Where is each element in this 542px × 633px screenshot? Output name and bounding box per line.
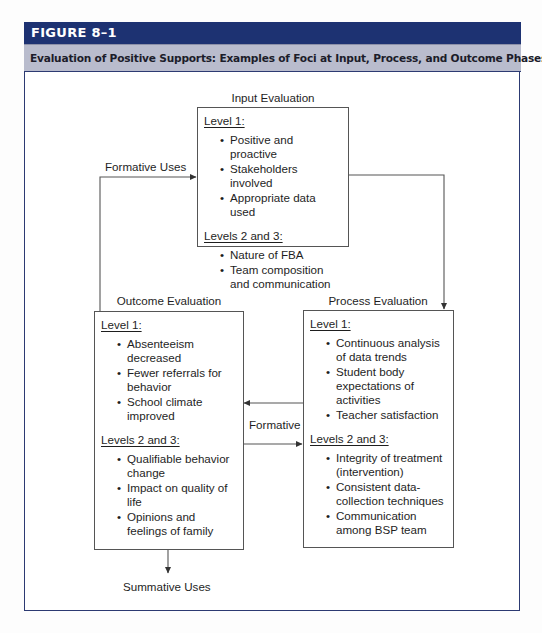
list-item: Nature of FBA — [220, 248, 342, 262]
figure-title: Evaluation of Positive Supports: Example… — [24, 44, 521, 72]
input-level23-heading: Levels 2 and 3: — [204, 229, 342, 243]
list-item: Stakeholders involved — [220, 162, 342, 190]
summative-uses-label: Summative Uses — [123, 580, 211, 594]
process-level1-list: Continuous analysis of data trends Stude… — [310, 336, 447, 422]
list-item: Opinions and feelings of family — [117, 510, 237, 538]
process-level23-heading: Levels 2 and 3: — [310, 432, 447, 446]
input-level1-heading: Level 1: — [204, 114, 342, 128]
outcome-level23-heading: Levels 2 and 3: — [101, 433, 237, 447]
list-item: School climate improved — [117, 395, 237, 423]
process-level1-heading: Level 1: — [310, 317, 447, 331]
process-evaluation-title: Process Evaluation — [303, 294, 453, 308]
outcome-level1-heading: Level 1: — [101, 318, 237, 332]
list-item: Integrity of treatment (intervention) — [326, 451, 447, 479]
outcome-level23-list: Qualifiable behavior change Impact on qu… — [101, 452, 237, 538]
list-item: Student body expectations of activities — [326, 365, 447, 407]
list-item: Positive and proactive — [220, 133, 342, 161]
process-evaluation-box: Level 1: Continuous analysis of data tre… — [303, 310, 454, 548]
list-item: Team composition and communication — [220, 263, 342, 291]
input-evaluation-box: Level 1: Positive and proactive Stakehol… — [197, 107, 349, 247]
input-evaluation-title: Input Evaluation — [197, 91, 349, 105]
list-item: Qualifiable behavior change — [117, 452, 237, 480]
list-item: Communication among BSP team — [326, 509, 447, 537]
list-item: Appropriate data used — [220, 191, 342, 219]
outcome-evaluation-box: Level 1: Absenteeism decreased Fewer ref… — [94, 311, 244, 550]
figure-number: FIGURE 8–1 — [24, 22, 521, 44]
list-item: Continuous analysis of data trends — [326, 336, 447, 364]
input-level1-list: Positive and proactive Stakeholders invo… — [204, 133, 342, 219]
formative-label: Formative — [249, 418, 301, 432]
list-item: Absenteeism decreased — [117, 337, 237, 365]
formative-uses-label: Formative Uses — [105, 160, 186, 174]
outcome-level1-list: Absenteeism decreased Fewer referrals fo… — [101, 337, 237, 423]
list-item: Impact on quality of life — [117, 481, 237, 509]
list-item: Fewer referrals for behavior — [117, 366, 237, 394]
outcome-evaluation-title: Outcome Evaluation — [94, 294, 244, 308]
list-item: Teacher satisfaction — [326, 408, 447, 422]
input-level23-list: Nature of FBA Team composition and commu… — [204, 248, 342, 291]
process-level23-list: Integrity of treatment (intervention) Co… — [310, 451, 447, 537]
list-item: Consistent data-collection techniques — [326, 480, 447, 508]
